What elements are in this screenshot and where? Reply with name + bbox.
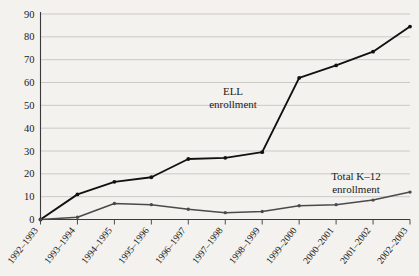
- data-point-ell-3: [149, 175, 153, 179]
- chart-container: Percent 0102030405060708090 1992–1993199…: [0, 0, 419, 276]
- y-tick-label-20: 20: [24, 168, 35, 179]
- x-tick-label-2: 1994–1995: [79, 225, 114, 266]
- y-tick-label-60: 60: [24, 77, 35, 88]
- x-tick-label-6: 1998–1999: [227, 225, 262, 266]
- y-tick-label-10: 10: [24, 191, 35, 202]
- data-point-ell-5: [223, 156, 227, 160]
- data-point-total-k12-7: [297, 204, 300, 207]
- y-axis-tick-labels: 0102030405060708090: [24, 9, 35, 226]
- annotation-ell-enrollment-line1: ELL: [223, 85, 243, 97]
- data-point-total-k12-4: [187, 208, 190, 211]
- data-point-total-k12-9: [371, 198, 374, 201]
- x-tick-label-0: 1992–1993: [5, 225, 40, 266]
- annotation-ell-enrollment-line2: enrollment: [209, 98, 257, 110]
- data-point-total-k12-3: [150, 203, 153, 206]
- data-point-total-k12-0: [39, 218, 42, 221]
- x-tick-label-5: 1997–1998: [190, 225, 225, 266]
- data-point-ell-9: [371, 50, 375, 54]
- x-axis-tick-marks: [41, 220, 411, 225]
- data-point-ell-10: [408, 25, 412, 29]
- data-point-ell-2: [113, 180, 117, 184]
- y-tick-label-50: 50: [24, 100, 35, 111]
- series-annotations-group: ELLenrollmentTotal K–12enrollment: [209, 85, 381, 195]
- y-tick-label-80: 80: [24, 31, 35, 42]
- y-tick-label-0: 0: [29, 214, 34, 225]
- data-point-total-k12-8: [334, 203, 337, 206]
- data-point-total-k12-10: [408, 190, 411, 193]
- y-tick-label-90: 90: [24, 9, 35, 20]
- y-tick-label-70: 70: [24, 54, 35, 65]
- data-point-total-k12-2: [113, 202, 116, 205]
- data-point-ell-1: [76, 192, 80, 196]
- x-tick-label-1: 1993–1994: [42, 225, 77, 266]
- x-tick-label-3: 1995–1996: [116, 225, 151, 266]
- line-chart-plot: 0102030405060708090 1992–19931993–199419…: [0, 0, 419, 276]
- x-axis-tick-labels: 1992–19931993–19941994–19951995–19961996…: [5, 225, 410, 266]
- data-point-total-k12-1: [76, 216, 79, 219]
- x-tick-label-10: 2002–2003: [374, 225, 409, 266]
- data-point-ell-6: [260, 150, 264, 154]
- annotation-ell-enrollment: ELLenrollment: [209, 85, 257, 110]
- y-tick-label-30: 30: [24, 146, 35, 157]
- x-tick-label-8: 2000–2001: [300, 225, 335, 266]
- series-line-total-k12: [41, 192, 411, 219]
- data-point-total-k12-5: [224, 211, 227, 214]
- y-tick-label-40: 40: [24, 123, 35, 134]
- annotation-total-k12-enrollment-line1: Total K–12: [331, 170, 381, 182]
- annotation-total-k12-enrollment-line2: enrollment: [332, 183, 380, 195]
- data-point-ell-7: [297, 76, 301, 80]
- x-tick-label-9: 2001–2002: [337, 225, 372, 266]
- x-tick-label-7: 1999–2000: [263, 225, 298, 266]
- data-point-ell-8: [334, 63, 338, 67]
- data-point-total-k12-6: [261, 210, 264, 213]
- x-tick-label-4: 1996–1997: [153, 225, 188, 266]
- annotation-total-k12-enrollment: Total K–12enrollment: [331, 170, 381, 195]
- data-point-ell-4: [186, 157, 190, 161]
